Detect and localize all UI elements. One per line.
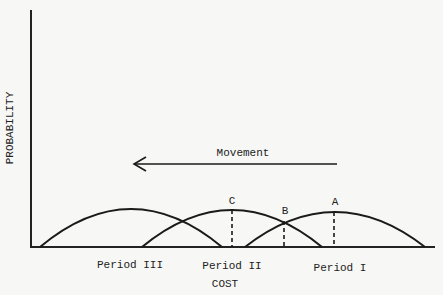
point-label-a: A [332,196,339,208]
period-ii-label: Period II [202,260,261,272]
point-label-c: C [229,195,236,207]
y-axis-label: PROBABILITY [4,91,16,164]
x-axis-label: COST [212,278,239,290]
point-label-b: B [282,205,289,217]
curve-period-iii [40,209,222,247]
probability-cost-diagram: PROBABILITY COST Movement C B A Period I… [0,0,443,295]
period-i-label: Period I [314,262,367,274]
movement-label: Movement [217,147,270,159]
period-iii-label: Period III [97,259,163,271]
